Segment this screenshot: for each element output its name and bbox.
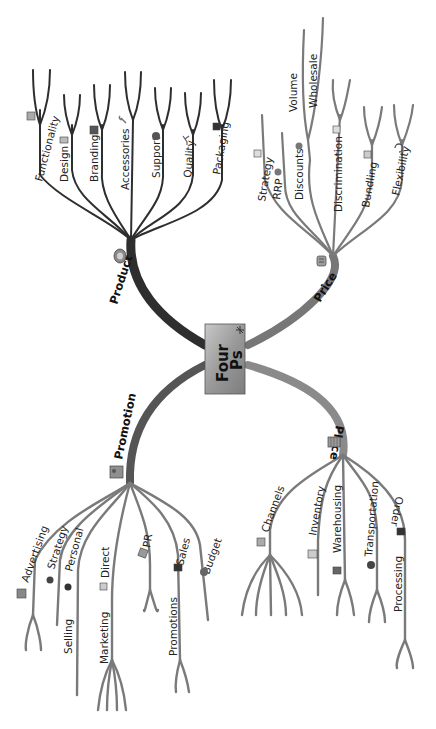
box-icon (213, 123, 220, 130)
factory-icon (397, 528, 405, 535)
svg-text:Warehousing: Warehousing (331, 485, 343, 553)
newspaper-icon (138, 548, 148, 558)
svg-text:Bundling: Bundling (359, 161, 379, 209)
leaf-branding[interactable]: Branding (88, 126, 100, 182)
promotion-trunk (130, 365, 205, 483)
wrench-icon (119, 116, 126, 123)
leaf-processing[interactable]: Processing (392, 556, 404, 612)
svg-text:RRP: RRP (270, 178, 285, 200)
svg-text:Promotions: Promotions (167, 597, 179, 656)
warehouse-icon (333, 567, 341, 574)
promotion-leaves: Advertising Strategy Personal Selling Di… (17, 524, 224, 664)
leaf-inventory[interactable]: Inventory (306, 485, 327, 558)
svg-text:PR: PR (140, 533, 154, 549)
leaf-accessories[interactable]: Accessories (119, 116, 131, 190)
svg-text:Wholesale: Wholesale (307, 54, 319, 108)
leaf-warehousing[interactable]: Warehousing (331, 485, 343, 574)
people-icon (47, 577, 54, 584)
promotion-branches (26, 483, 208, 710)
chart-icon (27, 112, 35, 120)
billboard-icon (17, 589, 26, 598)
svg-text:Support: Support (150, 136, 162, 178)
place-branches (242, 455, 413, 668)
stack-icon (364, 151, 371, 158)
leaf-direct[interactable]: Direct (99, 547, 111, 590)
people-icon (65, 584, 72, 591)
leaf-volume[interactable]: Volume (287, 73, 299, 112)
price-leaves: Strategy RRP Discounts Volume Wholesale … (254, 54, 411, 212)
svg-text:Direct: Direct (99, 547, 111, 578)
svg-text:Discrimination: Discrimination (332, 136, 344, 212)
svg-text:Processing: Processing (392, 556, 404, 612)
leaf-bundling[interactable]: Bundling (359, 151, 379, 208)
svg-text:Selling: Selling (62, 619, 74, 654)
svg-text:Price: Price (311, 269, 340, 304)
svg-text:Functionality: Functionality (32, 114, 61, 182)
leaf-design[interactable]: Design (58, 137, 70, 182)
svg-text:Design: Design (58, 146, 70, 182)
leaf-order[interactable]: Order (389, 496, 406, 535)
center-label-ps: Ps (228, 350, 246, 370)
building-icon (328, 437, 340, 447)
cash-register-icon (317, 256, 326, 266)
svg-text:Branding: Branding (88, 134, 100, 182)
truck-icon (367, 561, 375, 569)
center-node[interactable]: Four Ps (205, 324, 246, 394)
leaf-marketing[interactable]: Marketing (98, 612, 110, 664)
coins-icon (275, 169, 282, 176)
mind-map: Four Ps Product Price Promotion Place (0, 0, 436, 729)
svg-text:Inventory: Inventory (306, 485, 327, 536)
brand-flag-icon (90, 126, 98, 134)
product-leaves: Functionality Design Branding Accessorie… (27, 112, 231, 190)
shop-icon (174, 564, 182, 571)
leaf-functionality[interactable]: Functionality (27, 112, 61, 183)
leaf-support[interactable]: Support (150, 132, 162, 178)
leaf-packaging[interactable]: Packaging (210, 121, 231, 176)
leaf-flexibility[interactable]: Flexibility (389, 144, 411, 196)
mail-icon (100, 583, 107, 590)
coins-icon (296, 143, 303, 150)
svg-text:Volume: Volume (287, 73, 299, 112)
leaf-channels[interactable]: Channels (257, 484, 286, 546)
list-icon (308, 550, 317, 558)
leaf-budget[interactable]: Budget (200, 536, 224, 576)
leaf-rrp[interactable]: RRP (270, 169, 285, 201)
leaf-promotions[interactable]: Promotions (167, 597, 179, 656)
chart-icon (254, 150, 261, 157)
branch-label-product[interactable]: Product (107, 249, 136, 306)
svg-text:Accessories: Accessories (119, 128, 131, 190)
leaf-pr[interactable]: PR (138, 533, 154, 558)
network-icon (257, 538, 265, 546)
pie-icon (200, 568, 208, 576)
place-leaves: Channels Inventory Warehousing Transport… (257, 481, 406, 612)
leaf-discrimination[interactable]: Discrimination (332, 126, 344, 212)
svg-text:Channels: Channels (259, 484, 287, 534)
product-disc-icon (114, 249, 126, 263)
leaf-selling[interactable]: Selling (62, 619, 74, 654)
product-trunk (131, 240, 205, 345)
leaf-wholesale[interactable]: Wholesale (307, 54, 319, 108)
svg-text:Discounts: Discounts (293, 148, 305, 200)
phone-icon (152, 132, 160, 140)
square-icon (333, 126, 340, 133)
design-tools-icon (60, 137, 68, 143)
svg-text:Marketing: Marketing (98, 612, 110, 664)
svg-text:Flexibility: Flexibility (389, 145, 411, 197)
megaphone-icon (110, 466, 123, 478)
leaf-discounts[interactable]: Discounts (293, 143, 305, 201)
